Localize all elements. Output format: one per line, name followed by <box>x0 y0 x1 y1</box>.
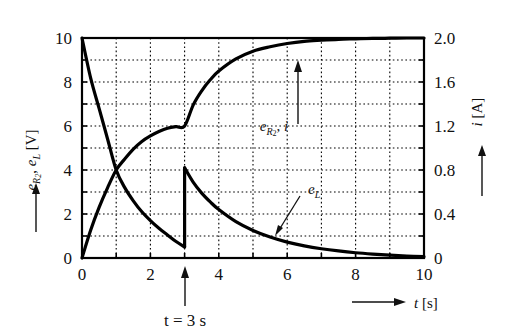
right-tick-label: 0 <box>434 249 443 268</box>
right-axis-label: i [A] <box>469 98 485 127</box>
x-tick-label: 0 <box>78 265 87 284</box>
x-tick-label: 6 <box>283 265 292 284</box>
left-tick-label: 2 <box>64 205 73 224</box>
left-tick-label: 6 <box>64 117 73 136</box>
x-tick-label: 8 <box>351 265 360 284</box>
left-tick-label: 0 <box>64 249 73 268</box>
x-tick-label: 4 <box>215 265 224 284</box>
right-tick-label: 1.2 <box>434 117 455 136</box>
left-tick-label: 10 <box>55 29 72 48</box>
right-tick-label: 1.6 <box>434 73 455 92</box>
event-label: t = 3 s <box>164 311 206 330</box>
right-tick-label: 0.4 <box>434 205 456 224</box>
left-tick-label: 8 <box>64 73 73 92</box>
left-tick-label: 4 <box>64 161 73 180</box>
line-chart: 0246810 0246810 00.40.81.21.62.0 eR2, eL… <box>0 0 509 333</box>
chart-figure: 0246810 0246810 00.40.81.21.62.0 eR2, eL… <box>0 0 509 333</box>
right-tick-label: 0.8 <box>434 161 455 180</box>
x-axis-label: t [s] <box>414 295 438 311</box>
right-tick-label: 2.0 <box>434 29 455 48</box>
x-tick-label: 10 <box>416 265 433 284</box>
x-tick-label: 2 <box>146 265 155 284</box>
